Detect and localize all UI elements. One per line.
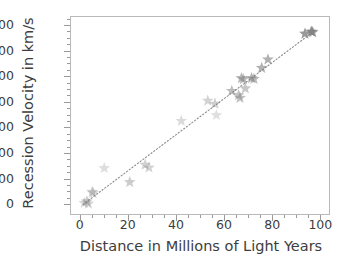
data-point-star [211,109,223,120]
scatter-chart-figure: Recession Velocity in km/s Distance in M… [0,0,348,266]
y-tick-label: 7,000 [0,19,14,32]
x-axis-title: Distance in Millions of Light Years [70,238,332,254]
y-tick-label: 5,000 [0,70,14,83]
y-tick-label: 2,000 [0,147,14,160]
y-tick-label: 0 [0,198,14,211]
y-axis-title: Recession Velocity in km/s [20,13,36,213]
data-point-star [237,73,249,84]
y-tick-label: 3,000 [0,121,14,134]
plot-canvas [71,17,331,216]
data-point-star [175,115,187,126]
y-tick-label: 4,000 [0,96,14,109]
trendline [83,31,314,204]
data-point-star [98,162,110,173]
y-tick-label: 1,000 [0,172,14,185]
data-point-star [239,82,251,93]
plot-area [70,16,330,215]
y-tick-label: 6,000 [0,44,14,57]
data-point-star [124,176,136,187]
trendline-path [83,31,314,204]
